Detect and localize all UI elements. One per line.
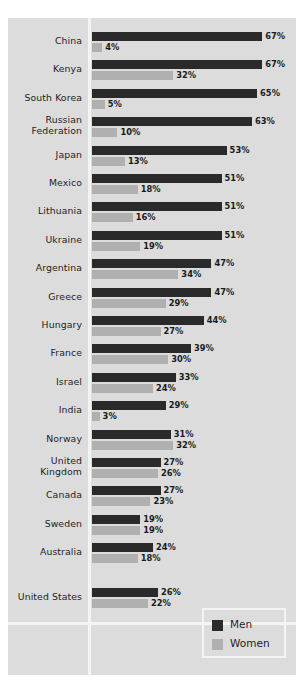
bar-value-label-women: 32% (176, 440, 196, 450)
bar-value-label-men: 33% (179, 372, 199, 382)
bar-row-group: UnitedKingdom27%26% (8, 455, 296, 483)
bar-men (92, 373, 176, 382)
bar-track-men: 27% (92, 486, 296, 495)
bar-men (92, 458, 161, 467)
bar-men (92, 401, 166, 410)
bar-track-women: 16% (92, 213, 296, 222)
bar-track-men: 67% (92, 32, 296, 41)
bar-track-men: 53% (92, 146, 296, 155)
bar-value-label-men: 51% (225, 201, 245, 211)
country-label: Norway (8, 427, 82, 445)
chart-panel: China67%4%Kenya67%32%South Korea65%5%Rus… (8, 18, 296, 675)
bar-women (92, 43, 102, 52)
bar-value-label-women: 18% (141, 184, 161, 194)
bar-women (92, 327, 161, 336)
bar-women (92, 213, 133, 222)
bar-track-women: 4% (92, 43, 296, 52)
bar-women (92, 242, 140, 251)
bar-track-men: 44% (92, 316, 296, 325)
bar-track-men: 27% (92, 458, 296, 467)
bar-value-label-women: 29% (169, 298, 189, 308)
bar-track-women: 30% (92, 355, 296, 364)
bar-men (92, 174, 222, 183)
country-label: Israel (8, 370, 82, 388)
bar-row-group: Japan53%13% (8, 143, 296, 171)
bar-value-label-women: 24% (156, 383, 176, 393)
bar-women (92, 128, 117, 137)
country-label: RussianFederation (8, 114, 82, 136)
bar-women (92, 299, 166, 308)
bar-row-group: India29%3% (8, 398, 296, 426)
bar-men (92, 316, 204, 325)
bar-track-women: 13% (92, 157, 296, 166)
country-label: Lithuania (8, 199, 82, 217)
bar-track-women: 18% (92, 185, 296, 194)
bar-track-women: 34% (92, 270, 296, 279)
bar-value-label-men: 44% (207, 315, 227, 325)
legend-swatch-men-icon (212, 620, 223, 631)
country-label: France (8, 341, 82, 359)
bar-value-label-women: 30% (171, 354, 191, 364)
country-label: Sweden (8, 512, 82, 530)
bar-row-group: Canada27%23% (8, 483, 296, 511)
bar-row-group: Hungary44%27% (8, 313, 296, 341)
bar-track-men: 47% (92, 288, 296, 297)
bar-women (92, 100, 105, 109)
country-label: South Korea (8, 86, 82, 104)
bar-row-group: Argentina47%34% (8, 256, 296, 284)
bar-men (92, 486, 161, 495)
bar-men (92, 117, 252, 126)
bar-value-label-men: 67% (265, 31, 285, 41)
bar-value-label-women: 18% (141, 553, 161, 563)
bar-track-men: 31% (92, 430, 296, 439)
bar-men (92, 259, 211, 268)
bar-value-label-men: 31% (174, 429, 194, 439)
country-label: Hungary (8, 313, 82, 331)
bar-track-women: 27% (92, 327, 296, 336)
country-label: India (8, 398, 82, 416)
bar-value-label-men: 67% (265, 59, 285, 69)
bar-men (92, 515, 140, 524)
bar-women (92, 497, 150, 506)
bar-value-label-women: 34% (181, 269, 201, 279)
bar-track-women: 5% (92, 100, 296, 109)
bar-track-women: 29% (92, 299, 296, 308)
bar-women (92, 185, 138, 194)
bar-row-group: Ukraine51%19% (8, 228, 296, 256)
bar-men (92, 344, 191, 353)
country-label: UnitedKingdom (8, 455, 82, 477)
bar-value-label-men: 65% (260, 88, 280, 98)
bar-track-women: 22% (92, 599, 296, 608)
bar-women (92, 270, 178, 279)
country-label: Mexico (8, 171, 82, 189)
bar-track-women: 32% (92, 441, 296, 450)
bar-women (92, 441, 173, 450)
bar-value-label-men: 24% (156, 542, 176, 552)
bar-value-label-women: 32% (176, 70, 196, 80)
country-label: Kenya (8, 57, 82, 75)
country-label: Australia (8, 540, 82, 558)
bar-value-label-men: 39% (194, 343, 214, 353)
bar-men (92, 231, 222, 240)
bar-women (92, 599, 148, 608)
bar-row-group: Lithuania51%16% (8, 199, 296, 227)
bar-value-label-women: 22% (151, 598, 171, 608)
bar-value-label-women: 19% (143, 525, 163, 535)
bar-value-label-men: 51% (225, 230, 245, 240)
bar-track-men: 47% (92, 259, 296, 268)
bar-row-group: Sweden19%19% (8, 512, 296, 540)
country-label: China (8, 29, 82, 47)
bar-value-label-women: 3% (103, 411, 117, 421)
bar-track-women: 32% (92, 71, 296, 80)
country-label: Ukraine (8, 228, 82, 246)
bar-track-women: 19% (92, 242, 296, 251)
bar-value-label-men: 27% (164, 457, 184, 467)
bar-value-label-men: 53% (230, 145, 250, 155)
bar-track-men: 65% (92, 89, 296, 98)
bar-value-label-women: 27% (164, 326, 184, 336)
bar-value-label-women: 16% (136, 212, 156, 222)
bar-value-label-men: 47% (214, 258, 234, 268)
bar-track-men: 51% (92, 202, 296, 211)
bar-value-label-women: 4% (105, 42, 119, 52)
bar-row-group: Kenya67%32% (8, 57, 296, 85)
